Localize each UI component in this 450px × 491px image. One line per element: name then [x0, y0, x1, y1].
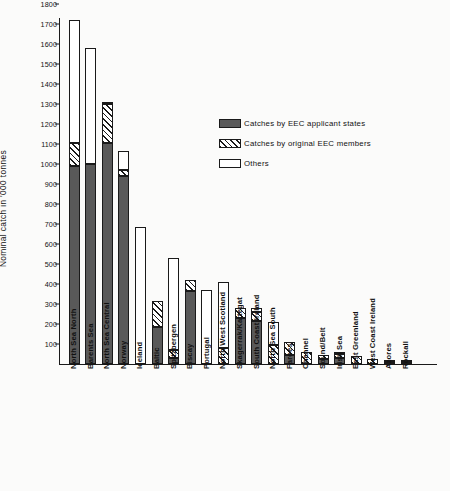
x-tick-label: Rockall [401, 341, 410, 369]
bar-segment-original [118, 170, 129, 176]
x-tick-label: Irish Sea [335, 336, 344, 369]
x-tick-label: Iceland [135, 342, 144, 369]
x-tick-label: Faroes [285, 343, 294, 369]
x-tick-label: North Sea Central [102, 302, 111, 369]
x-tick-label: South Coast Ireland [252, 294, 261, 369]
legend-item: Catches by original EEC members [219, 136, 371, 150]
bar-segment-original [69, 143, 80, 166]
bar-segment-original [185, 280, 196, 291]
x-tick-label: North West Scotland [218, 292, 227, 369]
legend-item: Catches by EEC applicant states [219, 116, 371, 130]
x-tick-label: East Greenland [351, 311, 360, 369]
bar-segment-original [152, 301, 163, 327]
x-tick-label: North Sea South [268, 307, 277, 369]
chart-legend: Catches by EEC applicant statesCatches b… [219, 116, 371, 176]
x-tick-label: Norway [119, 341, 128, 369]
legend-label: Catches by original EEC members [244, 139, 371, 148]
bar-segment-others [85, 48, 96, 164]
x-tick-label: Sound/Belt [318, 327, 327, 369]
x-tick-label: Channel [301, 338, 310, 369]
x-tick-label: Baltic [152, 347, 161, 369]
x-tick-label: Barents Sea [86, 323, 95, 369]
bar-segment-others [118, 151, 129, 170]
y-axis-ticks: 1002003004005006007008009001000110012001… [0, 0, 57, 491]
x-tick-label: Portugal [202, 337, 211, 369]
legend-swatch-applicant [219, 119, 241, 128]
x-tick-label: West Coast Ireland [368, 298, 377, 369]
x-tick-label: Skagerrak/Kattegat [235, 297, 244, 369]
bar-segment-others [102, 102, 113, 104]
legend-label: Catches by EEC applicant states [244, 119, 365, 128]
bar-chart: Nominal catch in '000 tonnes 10020030040… [0, 0, 450, 491]
x-tick-label: Azores [384, 343, 393, 369]
x-tick-label: Biscay [185, 344, 194, 369]
x-tick-label: Spitzbergen [169, 324, 178, 369]
legend-swatch-others [219, 159, 241, 168]
x-tick-label: North Sea North [69, 309, 78, 369]
legend-swatch-original [219, 139, 241, 148]
bars-area [59, 14, 439, 364]
legend-item: Others [219, 156, 371, 170]
legend-label: Others [244, 159, 269, 168]
bar-segment-original [102, 104, 113, 143]
bar-segment-others [69, 20, 80, 143]
y-tick-mark [55, 4, 59, 5]
x-axis-line [59, 364, 437, 365]
bar-segment-applicant [118, 176, 129, 364]
